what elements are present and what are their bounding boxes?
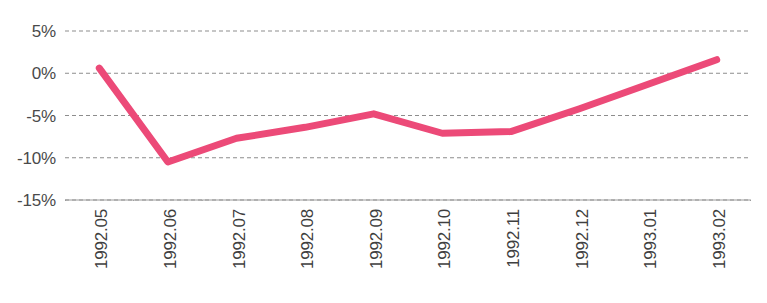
x-tick-label: 1992.12 xyxy=(573,209,593,269)
x-tick-label: 1992.08 xyxy=(298,209,318,269)
y-tick-label: -15% xyxy=(17,192,56,209)
x-tick-label: 1993.02 xyxy=(710,209,730,269)
plot-area xyxy=(65,0,751,201)
x-tick-label: 1992.05 xyxy=(92,209,112,269)
y-axis: 5%0%-5%-10%-15% xyxy=(0,0,62,303)
x-axis: 1992.051992.061992.071992.081992.091992.… xyxy=(65,201,751,303)
x-tick-label: 1992.09 xyxy=(367,209,387,269)
x-tick-label: 1992.11 xyxy=(504,209,524,268)
data-series-line xyxy=(99,60,716,162)
x-tick-label: 1993.01 xyxy=(641,209,661,269)
line-chart: 5%0%-5%-10%-15% 1992.051992.061992.07199… xyxy=(0,0,767,303)
y-tick-label: 0% xyxy=(32,65,56,82)
y-tick-label: -5% xyxy=(26,107,56,124)
plot-svg xyxy=(65,0,751,201)
y-tick-label: 5% xyxy=(32,23,56,40)
x-tick-label: 1992.10 xyxy=(435,209,455,269)
data-series-group xyxy=(99,60,716,162)
x-tick-label: 1992.06 xyxy=(161,209,181,269)
x-tick-label: 1992.07 xyxy=(230,209,250,269)
y-tick-label: -10% xyxy=(17,149,56,166)
gridlines xyxy=(65,31,751,200)
